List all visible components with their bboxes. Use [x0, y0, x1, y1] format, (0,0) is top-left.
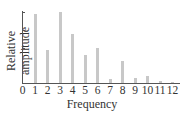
bar-3 [59, 12, 62, 83]
bar-5 [84, 55, 87, 83]
bar-11 [159, 81, 162, 83]
x-tick-label: 7 [107, 84, 113, 97]
x-tick-label: 1 [32, 84, 38, 97]
bar-chart: Relative amplitude 0123456789101112 Freq… [0, 0, 184, 119]
bar-7 [109, 79, 112, 83]
y-tick-mark [22, 48, 25, 49]
x-tick-label: 11 [154, 84, 165, 97]
x-tick-label: 4 [70, 84, 76, 97]
y-tick-mark [22, 30, 25, 31]
bar-9 [134, 78, 137, 83]
x-tick-label: 6 [95, 84, 101, 97]
x-tick-label: 10 [142, 84, 154, 97]
bar-8 [121, 61, 124, 83]
y-axis-label: Relative amplitude [4, 6, 18, 96]
bar-6 [96, 48, 99, 84]
x-tick-label: 12 [167, 84, 179, 97]
bar-4 [71, 34, 74, 83]
x-tick-label: 2 [45, 84, 51, 97]
bar-10 [146, 76, 149, 83]
bar-2 [46, 50, 49, 83]
bar-1 [34, 14, 37, 83]
x-tick-label: 8 [120, 84, 126, 97]
x-tick-label: 0 [20, 84, 26, 97]
x-tick-label: 3 [57, 84, 63, 97]
x-tick-label: 9 [132, 84, 138, 97]
y-tick-mark [22, 65, 25, 66]
bar-12 [171, 82, 174, 83]
y-tick-mark [22, 12, 25, 13]
x-axis-label: Frequency [0, 97, 184, 111]
x-tick-label: 5 [82, 84, 88, 97]
